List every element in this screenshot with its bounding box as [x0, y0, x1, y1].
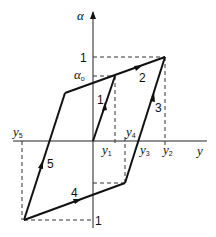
tick-alpha0: αo — [74, 67, 85, 82]
segment-label-4: 4 — [71, 186, 78, 200]
arrow-segment-5 — [38, 160, 43, 169]
marker-y1: y1 — [100, 142, 112, 157]
marker-y5: y5 — [11, 124, 23, 139]
alpha-axis-label: α — [77, 8, 85, 23]
segment-label-2: 2 — [139, 71, 146, 85]
marker-y3: y3 — [138, 142, 150, 157]
marker-y2: y2 — [161, 142, 173, 157]
segment-label-1: 1 — [97, 93, 104, 107]
tick-top-1: 1 — [80, 51, 87, 65]
segment-label-5: 5 — [47, 157, 54, 171]
hysteresis-diagram: α y 1 αo 1 y5 y1 y4 y3 y2 1 2 3 4 5 — [0, 0, 216, 237]
tick-bottom-1: 1 — [95, 214, 102, 228]
segment-5 — [24, 93, 65, 220]
marker-y4: y4 — [124, 124, 136, 139]
y-axis-label: y — [195, 143, 203, 158]
segment-label-3: 3 — [155, 101, 162, 115]
